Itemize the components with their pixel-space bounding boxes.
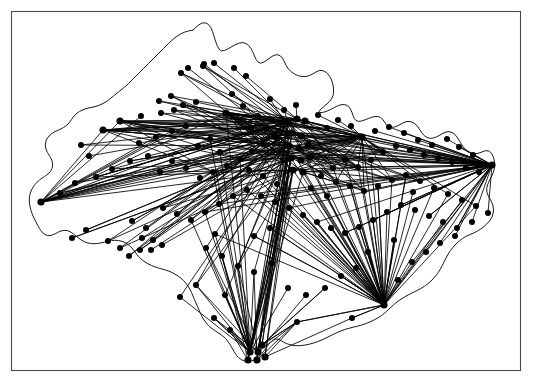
network-node bbox=[197, 175, 203, 181]
network-node bbox=[386, 124, 392, 130]
network-node bbox=[355, 164, 361, 170]
network-node bbox=[429, 142, 435, 148]
network-node bbox=[174, 211, 180, 217]
network-node bbox=[150, 237, 156, 243]
network-node bbox=[476, 169, 482, 175]
network-node bbox=[267, 96, 273, 102]
network-node bbox=[211, 315, 217, 321]
network-node bbox=[391, 237, 397, 243]
network-hub-node bbox=[488, 161, 495, 168]
network-node bbox=[183, 123, 189, 129]
network-node bbox=[255, 113, 261, 119]
network-node bbox=[335, 117, 341, 123]
network-node bbox=[157, 169, 163, 175]
network-node bbox=[403, 172, 409, 178]
figure-page bbox=[0, 0, 533, 388]
network-node bbox=[263, 125, 269, 131]
network-node bbox=[185, 65, 191, 71]
network-node bbox=[57, 190, 63, 196]
network-node bbox=[251, 233, 257, 239]
network-node bbox=[314, 219, 320, 225]
network-node bbox=[365, 249, 371, 255]
network-node bbox=[300, 212, 306, 218]
network-node bbox=[293, 102, 299, 108]
network-node bbox=[177, 294, 183, 300]
network-hub-node bbox=[253, 356, 260, 363]
network-node bbox=[109, 166, 115, 172]
network-node bbox=[322, 285, 328, 291]
network-node bbox=[216, 201, 222, 207]
network-node bbox=[117, 245, 123, 251]
network-node bbox=[83, 227, 89, 233]
network-node bbox=[260, 173, 266, 179]
network-node bbox=[211, 60, 217, 66]
network-node bbox=[449, 159, 455, 165]
network-node bbox=[260, 141, 266, 147]
network-hub-node bbox=[254, 348, 261, 355]
network-node bbox=[180, 102, 186, 108]
network-node bbox=[193, 99, 199, 105]
network-node bbox=[229, 91, 235, 97]
network-hub-node bbox=[258, 341, 265, 348]
network-node bbox=[160, 205, 166, 211]
network-node bbox=[210, 169, 216, 175]
network-node bbox=[129, 218, 135, 224]
network-node bbox=[459, 197, 465, 203]
network-node bbox=[324, 193, 330, 199]
network-node bbox=[148, 247, 154, 253]
network-node bbox=[251, 269, 257, 275]
network-node bbox=[224, 163, 230, 169]
network-node bbox=[328, 225, 334, 231]
network-hub-node bbox=[301, 117, 308, 124]
network-node bbox=[372, 128, 378, 134]
network-node bbox=[143, 225, 149, 231]
network-node bbox=[153, 134, 159, 140]
network-node bbox=[193, 282, 199, 288]
network-node bbox=[401, 130, 407, 136]
network-node bbox=[137, 247, 143, 253]
network-node bbox=[368, 157, 374, 163]
network-node bbox=[249, 148, 255, 154]
network-node bbox=[274, 181, 280, 187]
network-node bbox=[244, 187, 250, 193]
network-hub-node bbox=[246, 348, 253, 355]
network-node bbox=[281, 107, 287, 113]
network-hub-node bbox=[288, 129, 295, 136]
network-node bbox=[78, 142, 84, 148]
network-node bbox=[361, 188, 367, 194]
network-node bbox=[407, 147, 413, 153]
network-node bbox=[258, 193, 264, 199]
network-node bbox=[393, 143, 399, 149]
network-node bbox=[86, 153, 92, 159]
network-hub-node bbox=[99, 126, 106, 133]
network-hub-node bbox=[297, 132, 304, 139]
network-node bbox=[318, 173, 324, 179]
network-node bbox=[243, 73, 249, 79]
network-node bbox=[421, 152, 427, 158]
network-node bbox=[72, 180, 78, 186]
network-node bbox=[380, 149, 386, 155]
network-node bbox=[139, 235, 145, 241]
network-node bbox=[398, 202, 404, 208]
network-node bbox=[294, 319, 300, 325]
network-hub-node bbox=[261, 353, 268, 360]
network-node bbox=[136, 140, 142, 146]
network-node bbox=[168, 93, 174, 99]
network-node bbox=[230, 193, 236, 199]
network-node bbox=[330, 165, 336, 171]
network-node bbox=[452, 233, 458, 239]
network-node bbox=[473, 203, 479, 209]
network-node bbox=[342, 157, 348, 163]
network-node bbox=[348, 123, 354, 129]
network-node bbox=[158, 110, 164, 116]
network-hub-node bbox=[244, 356, 251, 363]
network-hub-node bbox=[358, 133, 365, 140]
network-node bbox=[202, 209, 208, 215]
network-node bbox=[156, 98, 162, 104]
network-node bbox=[178, 70, 184, 76]
network-node bbox=[248, 125, 254, 131]
network-node bbox=[203, 245, 209, 251]
network-node bbox=[93, 174, 99, 180]
network-node bbox=[338, 273, 344, 279]
network-hub-node bbox=[116, 117, 123, 124]
